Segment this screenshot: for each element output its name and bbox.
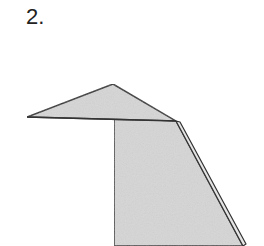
body-shape	[114, 118, 243, 246]
origami-diagram	[0, 0, 264, 246]
triangle-flap	[27, 84, 176, 121]
